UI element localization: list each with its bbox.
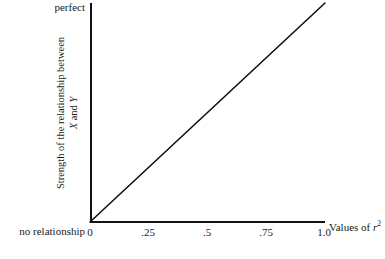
y-axis-title-y-symbol: Y (67, 97, 78, 103)
x-tick-label-3: .75 (251, 226, 281, 239)
x-axis-line (90, 221, 325, 223)
y-axis-title-x-symbol: X (67, 123, 78, 129)
x-axis-title: Values of r2 (329, 221, 381, 234)
data-line-series-1 (90, 3, 325, 222)
y-axis-title: Strength of the relationship between X a… (47, 38, 87, 188)
chart-figure: perfect no relationship Strength of the … (0, 0, 385, 259)
y-axis-line (90, 3, 92, 223)
y-axis-title-conjunction: and (67, 103, 78, 123)
y-axis-title-line1: Strength of the relationship between (55, 37, 66, 189)
y-axis-title-line2: X and Y (67, 37, 80, 189)
x-tick-label-0: 0 (75, 226, 105, 239)
y-axis-top-label: perfect (54, 1, 85, 14)
x-axis-title-prefix: Values of (329, 221, 373, 233)
x-tick-label-1: .25 (133, 226, 163, 239)
x-tick-label-2: .5 (192, 226, 222, 239)
x-axis-title-exponent: 2 (377, 219, 381, 228)
